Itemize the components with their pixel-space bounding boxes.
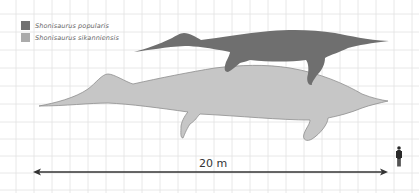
legend-label: Shonisaurus popularis bbox=[35, 22, 109, 30]
legend-item-sikanniensis: Shonisaurus sikanniensis bbox=[21, 32, 119, 43]
scale-label: 20 m bbox=[199, 157, 227, 170]
legend-label: Shonisaurus sikanniensis bbox=[35, 34, 119, 42]
legend-item-popularis: Shonisaurus popularis bbox=[21, 20, 119, 31]
legend-swatch-dark bbox=[21, 21, 30, 30]
legend-swatch-light bbox=[21, 33, 30, 42]
legend: Shonisaurus popularis Shonisaurus sikann… bbox=[21, 20, 119, 44]
shonisaurus-sikanniensis-silhouette bbox=[39, 65, 388, 140]
size-comparison-diagram: Shonisaurus popularis Shonisaurus sikann… bbox=[0, 0, 419, 193]
human-silhouette bbox=[396, 146, 402, 166]
